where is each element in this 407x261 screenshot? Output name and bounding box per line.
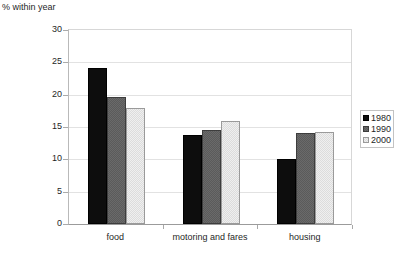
chart-legend: 198019902000 <box>360 110 394 148</box>
legend-swatch-icon <box>363 115 369 121</box>
bar-2000-motoring-and-fares <box>221 121 240 224</box>
gridline <box>69 95 351 96</box>
x-category-label: motoring and fares <box>163 232 258 243</box>
y-tick-mark <box>63 159 68 160</box>
y-tick-label: 10 <box>52 154 62 163</box>
bar-1990-housing <box>296 133 315 224</box>
y-tick-mark <box>63 127 68 128</box>
legend-item-1980: 1980 <box>363 113 391 123</box>
y-tick-label: 15 <box>52 122 62 131</box>
legend-swatch-icon <box>363 137 369 143</box>
y-tick-mark <box>63 95 68 96</box>
x-category-label: housing <box>257 232 352 243</box>
y-tick-label: 0 <box>57 219 62 228</box>
bar-2000-food <box>126 108 145 224</box>
gridline <box>69 62 351 63</box>
y-tick-label: 30 <box>52 25 62 34</box>
y-tick-mark <box>63 62 68 63</box>
y-tick-mark <box>63 224 68 225</box>
y-tick-label: 5 <box>57 187 62 196</box>
y-tick-label: 25 <box>52 57 62 66</box>
bar-1980-motoring-and-fares <box>183 135 202 224</box>
bar-2000-housing <box>315 132 334 224</box>
y-axis-caption: % within year <box>2 2 56 13</box>
y-tick-mark <box>63 30 68 31</box>
bar-1980-food <box>88 68 107 224</box>
legend-label: 1980 <box>371 114 391 123</box>
x-tick-mark <box>352 225 353 229</box>
bar-1990-motoring-and-fares <box>202 130 221 224</box>
legend-label: 1990 <box>371 125 391 134</box>
plot-area <box>68 29 352 225</box>
x-category-label: food <box>68 232 163 243</box>
bar-1990-food <box>107 97 126 224</box>
bar-1980-housing <box>277 159 296 224</box>
legend-swatch-icon <box>363 126 369 132</box>
legend-item-1990: 1990 <box>363 124 391 134</box>
y-tick-label: 20 <box>52 90 62 99</box>
y-tick-mark <box>63 192 68 193</box>
legend-label: 2000 <box>371 136 391 145</box>
legend-item-2000: 2000 <box>363 135 391 145</box>
x-tick-mark <box>163 225 164 229</box>
x-tick-mark <box>257 225 258 229</box>
